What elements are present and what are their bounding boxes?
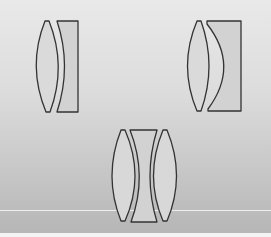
lens-diagram	[0, 0, 271, 237]
plano-concave-lens	[57, 21, 78, 112]
lens-group-triplet	[112, 130, 177, 222]
biconvex-lens	[36, 21, 58, 112]
plano-concave-lens	[207, 21, 241, 111]
biconvex-lens	[188, 21, 210, 111]
biconvex-lens-right	[154, 130, 177, 221]
biconvex-lens-left	[112, 130, 135, 221]
lens-group-doublet-right	[188, 21, 242, 111]
lens-group-doublet-left	[36, 21, 78, 112]
